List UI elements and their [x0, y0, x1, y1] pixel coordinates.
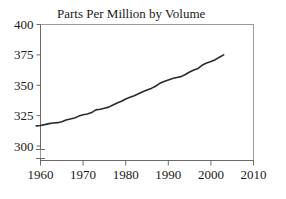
x-tick-label: 1970 — [70, 167, 96, 182]
y-tick-label: 375 — [14, 47, 34, 62]
y-tick-label: 300 — [14, 139, 34, 154]
x-tick-label: 2000 — [198, 167, 224, 182]
x-tick-label: 2010 — [241, 167, 267, 182]
y-tick-label: 350 — [14, 78, 34, 93]
x-tick-label: 1990 — [155, 167, 181, 182]
x-tick-label: 1980 — [113, 167, 139, 182]
x-tick-label: 1960 — [28, 167, 54, 182]
y-tick-label: 400 — [14, 17, 34, 32]
line-chart: Parts Per Million by Volume 300325350375… — [0, 0, 286, 199]
chart-container: Parts Per Million by Volume 300325350375… — [0, 0, 286, 199]
y-tick-label: 325 — [14, 108, 34, 123]
chart-title: Parts Per Million by Volume — [57, 6, 206, 21]
